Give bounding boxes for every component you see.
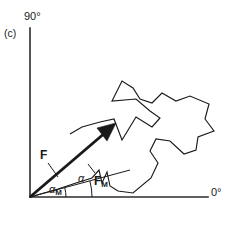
- force-label: F: [40, 149, 47, 161]
- mean-force-label: FM: [94, 175, 108, 189]
- mean-angle-label: αM: [49, 184, 62, 197]
- alpha-m-arc: [65, 188, 66, 197]
- random-walk-path: [30, 81, 214, 197]
- alpha-arc: [90, 181, 92, 197]
- mean-force-subscript: M: [101, 180, 108, 189]
- figure-container: (c) 90° 0° F α αM FM: [0, 0, 235, 225]
- leader-line-FM: [88, 164, 95, 173]
- angle-label: α: [78, 173, 84, 184]
- random-walk-polyline: [30, 81, 214, 197]
- x-axis-label: 0°: [211, 187, 222, 198]
- leader-line-F: [48, 163, 58, 177]
- y-axis-label: 90°: [24, 11, 41, 22]
- panel-label: (c): [4, 28, 16, 39]
- figure-canvas: [0, 0, 235, 225]
- axis-group: [30, 28, 208, 197]
- mean-angle-subscript: M: [55, 188, 62, 197]
